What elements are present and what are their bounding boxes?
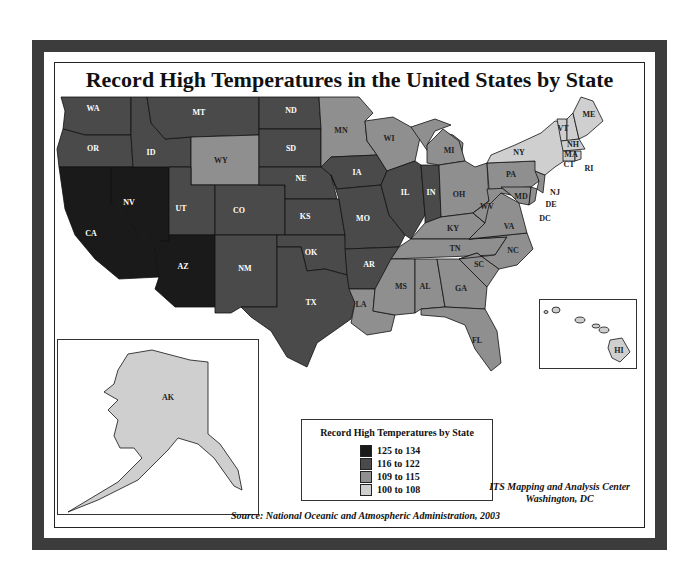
alaska-inset: AK bbox=[57, 339, 259, 515]
label-LA: LA bbox=[355, 300, 366, 309]
state-WA[interactable] bbox=[61, 97, 131, 135]
label-NV: NV bbox=[123, 198, 135, 207]
map-panel: Record High Temperatures in the United S… bbox=[54, 62, 645, 528]
label-MO: MO bbox=[356, 214, 370, 223]
label-CT: CT bbox=[563, 160, 575, 169]
credit-line-1: ITS Mapping and Analysis Center bbox=[489, 481, 630, 493]
label-OR: OR bbox=[87, 144, 99, 153]
label-FL: FL bbox=[472, 336, 482, 345]
legend-items: 125 to 134 116 to 122 109 to 115 100 to … bbox=[360, 444, 420, 496]
label-ME: ME bbox=[583, 110, 596, 119]
label-CO: CO bbox=[233, 206, 245, 215]
state-AZ[interactable] bbox=[155, 235, 215, 307]
label-WI: WI bbox=[383, 134, 394, 143]
label-NM: NM bbox=[238, 264, 252, 273]
legend-item: 100 to 108 bbox=[360, 483, 420, 496]
label-AZ: AZ bbox=[177, 262, 188, 271]
label-KY: KY bbox=[447, 224, 459, 233]
label-RI: RI bbox=[585, 164, 594, 173]
label-VA: VA bbox=[504, 222, 515, 231]
label-NC: NC bbox=[507, 246, 519, 255]
label-DC: DC bbox=[539, 214, 551, 223]
credit-line-2: Washington, DC bbox=[489, 493, 630, 505]
label-OK: OK bbox=[305, 248, 318, 257]
source-note: Source: National Oceanic and Atmospheric… bbox=[231, 510, 500, 521]
state-KS[interactable] bbox=[285, 199, 345, 235]
map-paper: Record High Temperatures in the United S… bbox=[44, 52, 655, 538]
label-TX: TX bbox=[305, 298, 316, 307]
label-SD: SD bbox=[286, 144, 296, 153]
legend-item: 125 to 134 bbox=[360, 444, 420, 457]
label-NY: NY bbox=[513, 148, 525, 157]
label-MI: MI bbox=[444, 146, 455, 155]
label-UT: UT bbox=[175, 204, 187, 213]
label-NJ: NJ bbox=[550, 188, 560, 197]
legend-swatch bbox=[360, 458, 372, 470]
label-MA: MA bbox=[564, 150, 578, 159]
legend: Record High Temperatures by State 125 to… bbox=[301, 419, 493, 501]
map-frame: Record High Temperatures in the United S… bbox=[32, 40, 667, 550]
legend-label: 100 to 108 bbox=[377, 484, 420, 495]
label-AL: AL bbox=[419, 282, 430, 291]
label-NH: NH bbox=[567, 140, 580, 149]
label-ID: ID bbox=[147, 148, 156, 157]
label-WV: WV bbox=[480, 202, 494, 211]
label-IA: IA bbox=[353, 168, 362, 177]
label-CA: CA bbox=[85, 229, 97, 238]
legend-swatch bbox=[360, 471, 372, 483]
credit: ITS Mapping and Analysis Center Washingt… bbox=[489, 481, 630, 505]
state-NM[interactable] bbox=[215, 235, 277, 313]
label-TN: TN bbox=[449, 244, 460, 253]
label-MT: MT bbox=[193, 108, 207, 117]
label-WY: WY bbox=[214, 156, 228, 165]
legend-label: 125 to 134 bbox=[377, 445, 420, 456]
hawaii-map: HI bbox=[540, 300, 636, 368]
label-GA: GA bbox=[455, 284, 467, 293]
label-NE: NE bbox=[295, 174, 306, 183]
state-MT[interactable] bbox=[147, 97, 259, 139]
label-HI: HI bbox=[614, 346, 623, 355]
label-KS: KS bbox=[300, 212, 311, 221]
label-IN: IN bbox=[427, 188, 436, 197]
legend-swatch bbox=[360, 445, 372, 457]
label-MD: MD bbox=[514, 192, 528, 201]
legend-item: 109 to 115 bbox=[360, 470, 420, 483]
legend-title: Record High Temperatures by State bbox=[302, 427, 492, 438]
label-SC: SC bbox=[474, 260, 484, 269]
label-WA: WA bbox=[87, 104, 100, 113]
legend-swatch bbox=[360, 484, 372, 496]
label-AR: AR bbox=[363, 260, 375, 269]
label-MS: MS bbox=[395, 282, 408, 291]
alaska-map: AK bbox=[58, 340, 258, 514]
label-OH: OH bbox=[453, 190, 466, 199]
state-CO[interactable] bbox=[215, 185, 285, 235]
state-FL[interactable] bbox=[421, 307, 501, 371]
label-DE: DE bbox=[545, 200, 556, 209]
hawaii-inset: HI bbox=[539, 299, 637, 369]
label-PA: PA bbox=[506, 170, 516, 179]
legend-label: 109 to 115 bbox=[377, 471, 420, 482]
legend-item: 116 to 122 bbox=[360, 457, 420, 470]
state-HI-kauai[interactable] bbox=[552, 307, 560, 313]
label-IL: IL bbox=[401, 188, 409, 197]
label-VT: VT bbox=[557, 124, 569, 133]
state-AK[interactable] bbox=[68, 350, 242, 512]
label-AK: AK bbox=[162, 393, 175, 402]
label-ND: ND bbox=[285, 106, 297, 115]
legend-label: 116 to 122 bbox=[377, 458, 420, 469]
label-MN: MN bbox=[334, 126, 348, 135]
